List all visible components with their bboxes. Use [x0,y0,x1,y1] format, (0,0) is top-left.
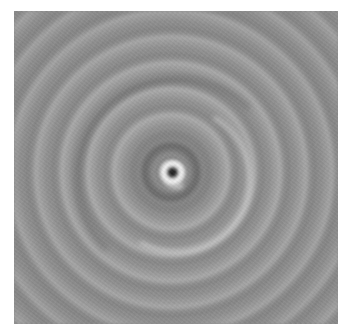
concentric-ring-image: Grayscale concentric ring pattern with a… [14,11,338,324]
grain-texture [14,11,338,324]
